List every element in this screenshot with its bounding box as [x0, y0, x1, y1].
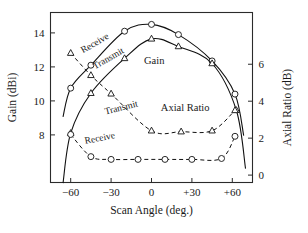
- y2-tick-label: 0: [259, 169, 265, 181]
- data-point-marker: [148, 127, 154, 133]
- y2-tick-label: 4: [259, 95, 265, 107]
- x-tick-label: −30: [102, 186, 120, 198]
- y-axis-title: Gain (dBi): [6, 73, 19, 123]
- y2-tick-label: 6: [259, 58, 265, 70]
- data-point-marker: [175, 32, 181, 38]
- data-point-marker: [149, 21, 155, 27]
- data-point-marker: [232, 91, 238, 97]
- x-tick-label: 0: [149, 186, 155, 198]
- y-tick-label: 8: [39, 129, 45, 141]
- receive-ar-label: Receive: [84, 130, 116, 146]
- chart-annotations: GainAxial RatioReceiveTransmitTransmitRe…: [79, 31, 209, 146]
- data-point-marker: [67, 50, 73, 56]
- x-tick-label: +30: [183, 186, 201, 198]
- y-tick-label: 14: [34, 27, 46, 39]
- data-point-marker: [108, 90, 114, 96]
- data-point-marker: [135, 156, 141, 162]
- gain-group-label: Gain: [144, 55, 165, 66]
- axis-tick-labels: −60−300+30+6081012140246: [34, 27, 265, 198]
- x-axis-title: Scan Angle (deg.): [110, 204, 193, 217]
- data-point-marker: [88, 154, 94, 160]
- x-tick-label: +60: [224, 186, 242, 198]
- data-point-marker: [219, 155, 225, 161]
- y2-tick-label: 2: [259, 132, 265, 144]
- axial-ratio-group-label: Axial Ratio: [161, 102, 210, 113]
- transmit-ar-label: Transmit: [103, 98, 139, 116]
- antenna-scan-chart: −60−300+30+6081012140246 GainAxial Ratio…: [0, 0, 308, 233]
- data-point-marker: [162, 156, 168, 162]
- data-point-marker: [88, 72, 94, 78]
- data-point-marker: [108, 156, 114, 162]
- figure-container: −60−300+30+6081012140246 GainAxial Ratio…: [0, 0, 308, 233]
- data-point-marker: [189, 156, 195, 162]
- data-point-marker: [232, 133, 238, 139]
- data-point-marker: [122, 28, 128, 34]
- y-tick-label: 12: [34, 61, 45, 73]
- data-point-marker: [68, 131, 74, 137]
- data-point-marker: [178, 128, 184, 134]
- transmit-gain-label: Transmit: [91, 45, 126, 71]
- x-tick-label: −60: [62, 186, 80, 198]
- receive-gain-label: Receive: [79, 31, 110, 55]
- y2-axis-title: Axial Ratio (dB): [281, 69, 294, 146]
- data-point-marker: [68, 85, 74, 91]
- y-tick-label: 10: [34, 95, 46, 107]
